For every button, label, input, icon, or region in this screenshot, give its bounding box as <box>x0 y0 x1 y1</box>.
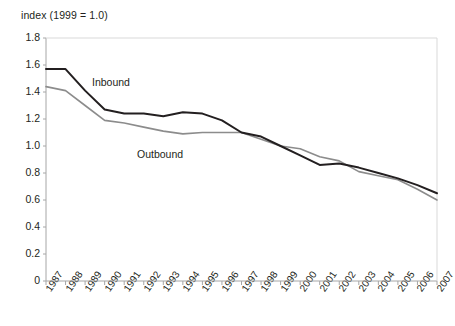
x-axis-ticks <box>46 281 437 285</box>
plot-area <box>0 0 455 326</box>
chart-container: index (1999 = 1.0) 1.81.61.41.21.00.80.6… <box>0 0 455 326</box>
series-label-inbound: Inbound <box>92 76 130 88</box>
axis-lines <box>46 38 437 281</box>
series-label-outbound: Outbound <box>137 148 183 160</box>
series-line-outbound <box>46 87 437 200</box>
